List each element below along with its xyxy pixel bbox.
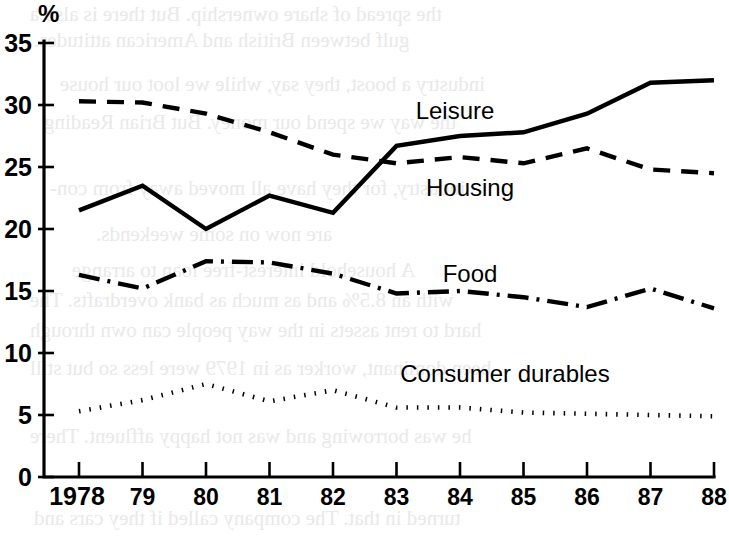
x-axis-tick-labels: 197879808182838485868788 [49,482,727,510]
y-axis-tick-label: 0 [18,463,32,491]
y-axis-tick-label: 25 [4,153,32,181]
series-label-leisure: Leisure [416,97,495,124]
x-axis-ticks [79,462,714,477]
x-axis-tick-label: 84 [447,484,473,510]
series-label-food: Food [443,260,498,287]
y-axis-ticks [38,43,54,477]
line-chart-svg: % 05101520253035 19787980818283848586878… [0,0,729,541]
y-axis-tick-label: 15 [4,277,32,305]
x-axis-tick-label: 87 [638,484,664,510]
y-axis-tick-labels: 05101520253035 [4,29,32,491]
y-axis-tick-label: 10 [4,339,32,367]
series-line-consumer-durables [79,384,714,416]
x-axis-tick-label: 82 [320,484,346,510]
x-axis-tick-label: 1978 [49,482,105,510]
y-axis-tick-label: 30 [4,91,32,119]
y-axis-tick-label: 20 [4,215,32,243]
series-line-leisure [79,80,714,229]
x-axis-tick-label: 81 [257,484,283,510]
x-axis-tick-label: 80 [193,484,219,510]
y-axis-unit-label: % [38,0,59,27]
x-axis-tick-label: 88 [701,484,727,510]
y-axis-tick-label: 35 [4,29,32,57]
x-axis-tick-label: 86 [574,484,600,510]
series-label-consumer-durables: Consumer durables [400,360,609,387]
y-axis-tick-label: 5 [18,401,32,429]
axis-spines [44,41,714,477]
x-axis-tick-label: 85 [511,484,537,510]
x-axis-tick-label: 83 [384,484,410,510]
x-axis-tick-label: 79 [130,484,156,510]
series-line-housing [79,101,714,173]
chart-figure: the spread of share ownership. But there… [0,0,729,541]
series-line-food [79,261,714,308]
data-series-group [79,80,714,416]
series-label-housing: Housing [426,174,514,201]
